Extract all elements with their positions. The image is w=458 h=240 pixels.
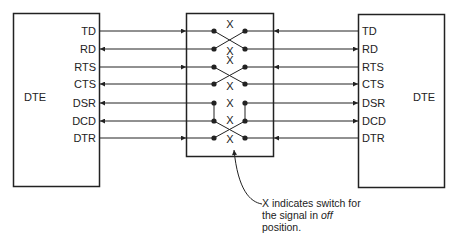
null-modem-diagram: DTE DTE TD RD RTS CTS DSR DCD DTR TD RD … — [0, 0, 458, 240]
right-signal-labels: TD RD RTS CTS DSR DCD DTR — [362, 25, 386, 144]
left-label-rts: RTS — [74, 61, 96, 73]
switch-x-dcd: X — [226, 114, 234, 126]
right-label-dcd: DCD — [362, 115, 386, 127]
left-label-dcd: DCD — [72, 115, 96, 127]
switch-markers: X X X X X X X — [226, 18, 234, 145]
left-label-dsr: DSR — [73, 97, 96, 109]
switch-x-rts: X — [226, 54, 234, 66]
right-label-cts: CTS — [362, 78, 384, 90]
note-line-1: X indicates switch for — [262, 197, 361, 209]
left-wires — [100, 31, 186, 138]
right-label-rts: RTS — [362, 61, 384, 73]
left-signal-labels: TD RD RTS CTS DSR DCD DTR — [72, 25, 96, 144]
right-dte-label: DTE — [413, 91, 435, 103]
left-label-rd: RD — [80, 43, 96, 55]
left-label-dtr: DTR — [73, 132, 96, 144]
note-line-2: the signal in off — [262, 209, 334, 221]
annotation-note: X indicates switch for the signal in off… — [262, 197, 361, 233]
left-dte-label: DTE — [24, 91, 46, 103]
note-line-3: position. — [262, 221, 301, 233]
annotation-leader — [234, 150, 262, 204]
switch-x-cts: X — [226, 80, 234, 92]
left-label-td: TD — [81, 25, 96, 37]
right-label-rd: RD — [362, 43, 378, 55]
switch-x-dtr: X — [226, 133, 234, 145]
right-wires — [274, 31, 358, 138]
switch-x-dsr: X — [226, 97, 234, 109]
right-label-dsr: DSR — [362, 97, 385, 109]
left-label-cts: CTS — [74, 78, 96, 90]
switch-x-td: X — [226, 18, 234, 30]
right-label-td: TD — [362, 25, 377, 37]
right-label-dtr: DTR — [362, 132, 385, 144]
